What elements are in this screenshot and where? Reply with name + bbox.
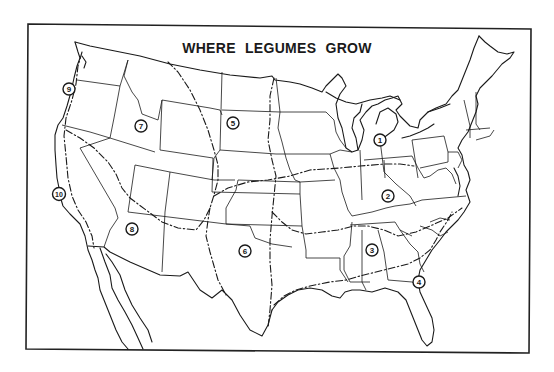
svg-text:3: 3 [370, 246, 375, 255]
map-frame [26, 24, 531, 353]
region-marker-5: 5 [227, 117, 239, 129]
us-outline [55, 36, 514, 349]
svg-text:10: 10 [55, 191, 63, 198]
svg-text:5: 5 [231, 119, 236, 128]
region-marker-1: 1 [374, 134, 386, 146]
svg-text:4: 4 [417, 278, 422, 287]
svg-text:6: 6 [243, 247, 248, 256]
region-marker-4: 4 [413, 276, 425, 288]
map-title: WHERE LEGUMES GROW [0, 40, 554, 56]
region-marker-3: 3 [366, 244, 378, 256]
svg-text:2: 2 [386, 192, 391, 201]
region-marker-8: 8 [126, 223, 138, 235]
region-marker-6: 6 [239, 245, 251, 257]
svg-text:9: 9 [67, 85, 72, 94]
region-marker-2: 2 [382, 190, 394, 202]
svg-text:8: 8 [130, 225, 135, 234]
region-marker-10: 10 [53, 188, 66, 201]
svg-text:7: 7 [139, 122, 144, 131]
region-marker-9: 9 [63, 83, 75, 95]
region-marker-7: 7 [135, 120, 147, 132]
svg-text:1: 1 [378, 136, 383, 145]
